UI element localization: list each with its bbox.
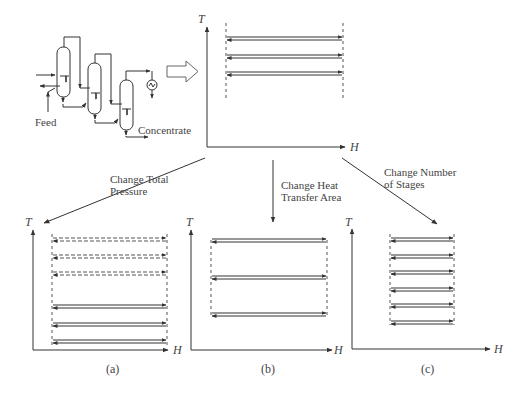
column-3	[120, 80, 133, 130]
transition-label-stages: Change Number of Stages	[384, 166, 456, 190]
transition-label-area: Change Heat Transfer Area	[281, 179, 341, 203]
transition-label-pressure: Change Total Pressure	[110, 173, 169, 197]
panel-b-y-label: T	[186, 215, 193, 230]
diagram-canvas	[0, 0, 522, 394]
top-chart-x-label: H	[350, 140, 359, 155]
transition-arrows	[44, 158, 437, 224]
top-chart	[207, 23, 345, 147]
panel-a-y-label: T	[25, 215, 32, 230]
panel-c-x-label: H	[494, 342, 503, 357]
panel-b-x-label: H	[334, 343, 343, 358]
panel-c	[352, 229, 490, 349]
panel-a	[33, 230, 168, 350]
panel-a-x-label: H	[173, 343, 182, 358]
concentrate-label: Concentrate	[138, 124, 191, 136]
panel-c-y-label: T	[345, 215, 352, 230]
panel-a-caption: (a)	[106, 362, 119, 377]
panel-b	[191, 230, 332, 350]
hollow-arrow-icon	[167, 61, 198, 82]
panel-c-caption: (c)	[421, 362, 434, 377]
panel-b-caption: (b)	[261, 362, 275, 377]
top-chart-y-label: T	[198, 12, 205, 27]
feed-label: Feed	[35, 116, 56, 128]
column-1	[57, 47, 70, 97]
